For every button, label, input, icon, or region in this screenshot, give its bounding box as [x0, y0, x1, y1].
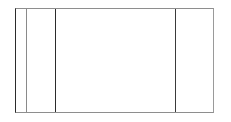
table-column-3: [56, 9, 176, 112]
table-column-2: [27, 9, 56, 112]
column-divider-3: [175, 9, 176, 112]
table-frame: [15, 8, 214, 113]
table-column-4: [176, 9, 215, 112]
column-divider-1: [26, 9, 27, 112]
column-divider-2: [55, 9, 56, 112]
figure-canvas: [0, 0, 231, 122]
